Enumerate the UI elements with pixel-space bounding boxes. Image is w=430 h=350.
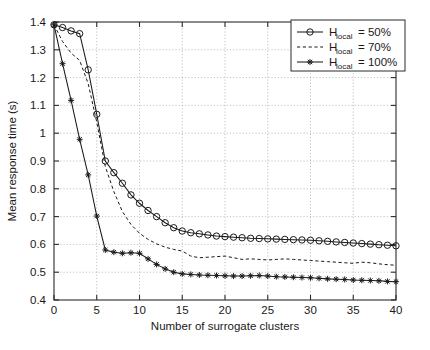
legend-label-value: = 50% xyxy=(358,26,391,38)
line-chart: 0510152025303540 0.40.50.60.70.80.911.11… xyxy=(0,0,430,350)
y-tick-label: 1.2 xyxy=(30,72,46,84)
legend-label-value: = 100% xyxy=(358,56,397,68)
y-tick-label: 1 xyxy=(40,127,46,139)
y-tick-label: 0.7 xyxy=(30,211,46,223)
legend-label-subscript: local xyxy=(336,47,353,56)
x-tick-label: 10 xyxy=(133,304,146,316)
y-tick-label: 0.9 xyxy=(30,155,46,167)
y-axis-tick-labels: 0.40.50.60.70.80.911.11.21.31.4 xyxy=(30,16,47,306)
y-axis-title: Mean response time (s) xyxy=(6,100,18,221)
x-tick-label: 40 xyxy=(390,304,403,316)
x-tick-label: 35 xyxy=(347,304,360,316)
x-tick-label: 15 xyxy=(176,304,189,316)
y-tick-label: 0.5 xyxy=(30,266,46,278)
legend: Hlocal= 50%Hlocal= 70%Hlocal= 100% xyxy=(291,20,405,71)
x-tick-label: 0 xyxy=(51,304,57,316)
x-tick-label: 20 xyxy=(219,304,232,316)
legend-label-value: = 70% xyxy=(358,41,391,53)
x-axis-tick-labels: 0510152025303540 xyxy=(51,304,403,316)
y-tick-label: 1.1 xyxy=(30,99,46,111)
legend-label-subscript: local xyxy=(336,32,353,41)
y-tick-label: 0.8 xyxy=(30,183,46,195)
legend-sample-marker xyxy=(307,59,313,65)
chart-figure: 0510152025303540 0.40.50.60.70.80.911.11… xyxy=(0,0,430,350)
legend-label-subscript: local xyxy=(336,62,353,71)
y-tick-label: 0.6 xyxy=(30,238,46,250)
x-tick-label: 30 xyxy=(304,304,317,316)
x-tick-label: 25 xyxy=(261,304,274,316)
x-axis-title: Number of surrogate clusters xyxy=(151,320,300,332)
x-tick-label: 5 xyxy=(94,304,100,316)
y-tick-label: 0.4 xyxy=(30,294,47,306)
y-tick-label: 1.4 xyxy=(30,16,47,28)
y-tick-label: 1.3 xyxy=(30,44,46,56)
